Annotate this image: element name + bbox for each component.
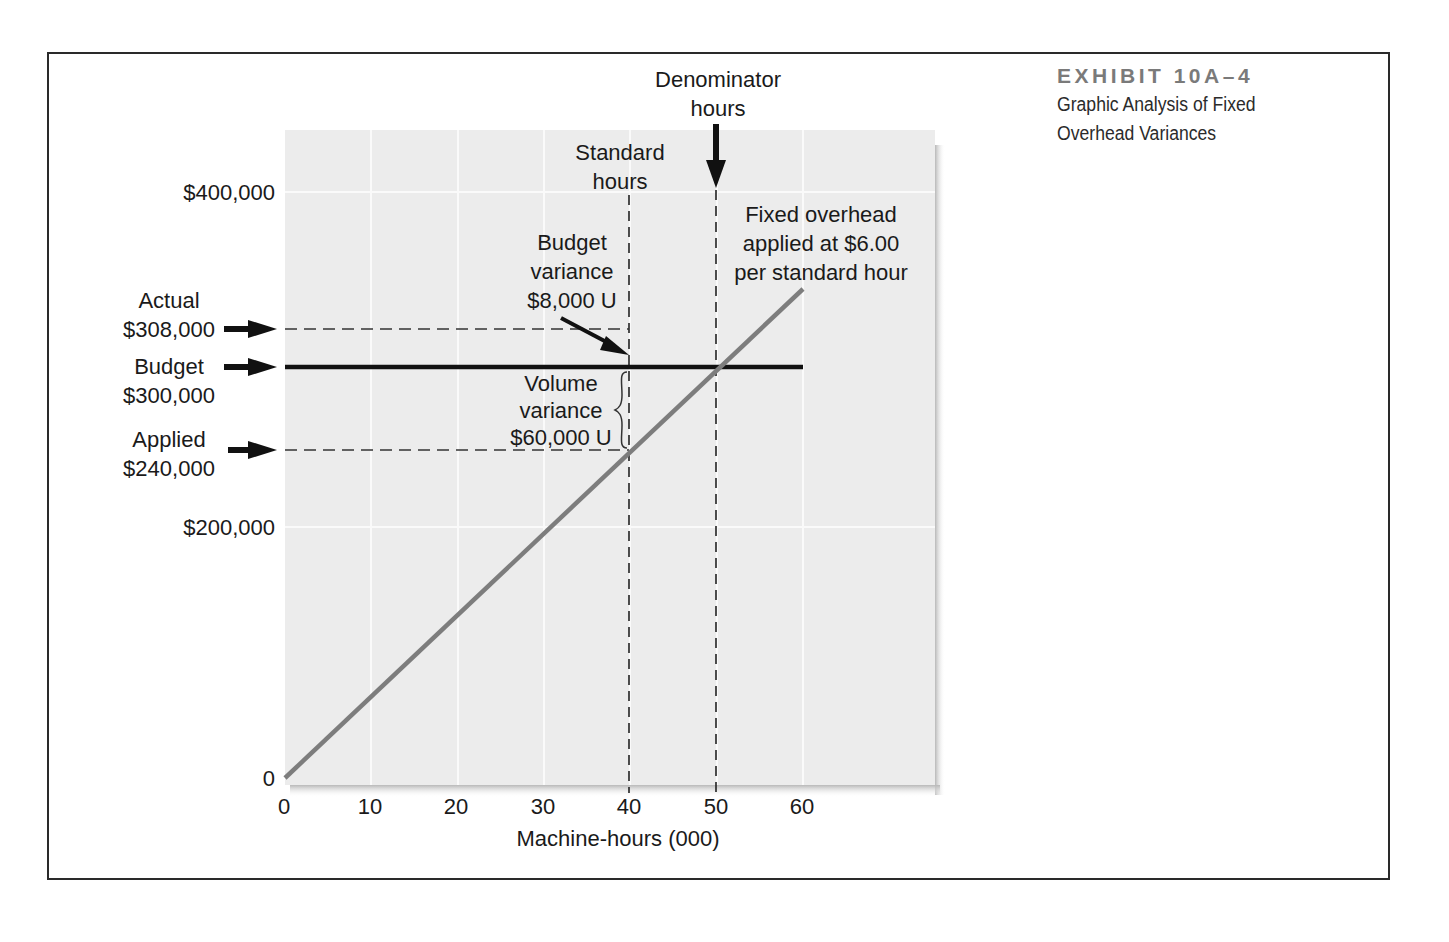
chart: $400,000 $200,000 0 0 10 20 30 40 50 60 … (0, 0, 1449, 942)
x-axis-label: Machine-hours (000) (517, 826, 720, 851)
volume-variance-label-2: variance (519, 398, 602, 423)
standard-hours-label-1: Standard (575, 140, 664, 165)
standard-hours-label-2: hours (592, 169, 647, 194)
applied-arrow-icon (248, 441, 277, 459)
budget-arrow-shaft (224, 364, 250, 370)
volume-variance-label-3: $60,000 U (510, 425, 612, 450)
denominator-label-1: Denominator (655, 67, 781, 92)
fixed-overhead-label-3: per standard hour (734, 260, 908, 285)
x-tick-50: 50 (704, 794, 728, 819)
denominator-label-2: hours (690, 96, 745, 121)
actual-arrow-icon (248, 320, 277, 338)
actual-label: Actual (138, 288, 199, 313)
x-tick-30: 30 (531, 794, 555, 819)
left-arrows (224, 320, 277, 459)
budget-value: $300,000 (123, 383, 215, 408)
budget-label: Budget (134, 354, 204, 379)
y-tick-400000: $400,000 (183, 180, 275, 205)
applied-label: Applied (132, 427, 205, 452)
fixed-overhead-label-2: applied at $6.00 (743, 231, 900, 256)
x-tick-10: 10 (358, 794, 382, 819)
y-axis: $400,000 $200,000 0 (183, 180, 275, 791)
applied-value: $240,000 (123, 456, 215, 481)
x-tick-60: 60 (790, 794, 814, 819)
volume-variance-label-1: Volume (524, 371, 597, 396)
actual-value: $308,000 (123, 317, 215, 342)
fixed-overhead-label-1: Fixed overhead (745, 202, 897, 227)
budget-arrow-icon (248, 358, 277, 376)
x-tick-20: 20 (444, 794, 468, 819)
budget-variance-label-1: Budget (537, 230, 607, 255)
x-tick-0: 0 (278, 794, 290, 819)
y-tick-200000: $200,000 (183, 515, 275, 540)
budget-variance-label-2: variance (530, 259, 613, 284)
x-axis: 0 10 20 30 40 50 60 Machine-hours (000) (278, 794, 814, 851)
y-tick-0: 0 (263, 766, 275, 791)
x-tick-40: 40 (617, 794, 641, 819)
actual-arrow-shaft (224, 326, 250, 332)
applied-arrow-shaft (228, 447, 250, 453)
budget-variance-label-3: $8,000 U (527, 288, 616, 313)
